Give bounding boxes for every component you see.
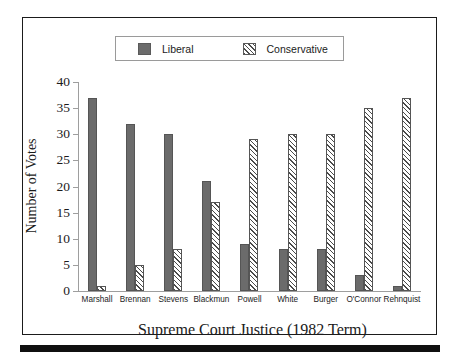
y-axis-tick <box>73 291 78 292</box>
x-axis-tick-label: Rehnquist <box>383 295 420 304</box>
x-axis-tick-label: Stevens <box>158 295 188 304</box>
legend-item-conservative: Conservative <box>243 43 328 55</box>
page-footer-rule <box>20 345 440 352</box>
y-axis-tick-label: 5 <box>63 257 70 273</box>
x-axis-tick-label: White <box>277 295 298 304</box>
y-axis-title: Number of Votes <box>24 138 40 233</box>
bar-liberal <box>126 124 135 291</box>
x-axis-tick-label: Marshall <box>82 295 113 304</box>
bar-liberal <box>164 134 173 291</box>
bar-group: Marshall <box>78 82 116 291</box>
chart-legend: Liberal Conservative <box>115 36 344 61</box>
y-axis-tick-label: 10 <box>57 231 71 247</box>
bar-conservative <box>364 108 373 291</box>
bar-conservative <box>211 202 220 291</box>
bar-conservative <box>135 265 144 291</box>
y-axis-tick-label: 0 <box>63 283 70 299</box>
bar-liberal <box>202 181 211 291</box>
legend-label-liberal: Liberal <box>162 43 194 55</box>
bar-group: Blackmun <box>192 82 230 291</box>
legend-label-conservative: Conservative <box>267 43 328 55</box>
bar-group: Burger <box>307 82 345 291</box>
bar-group: O'Connor <box>345 82 383 291</box>
y-axis-tick-label: 35 <box>57 100 71 116</box>
solid-square-icon <box>138 43 151 55</box>
bar-conservative <box>173 249 182 291</box>
x-axis-tick-label: Powell <box>237 295 261 304</box>
y-axis-tick-label: 40 <box>57 74 71 90</box>
bar-liberal <box>355 275 364 291</box>
x-axis-title: Supreme Court Justice (1982 Term) <box>45 321 455 339</box>
bar-group: Brennan <box>116 82 154 291</box>
y-axis-tick-label: 30 <box>57 126 71 142</box>
y-axis-tick-label: 20 <box>57 179 71 195</box>
bar-group: Stevens <box>154 82 192 291</box>
y-axis-tick-label: 15 <box>57 205 71 221</box>
bar-group: White <box>269 82 307 291</box>
bar-liberal <box>393 286 402 291</box>
bar-liberal <box>317 249 326 291</box>
bar-liberal <box>88 98 97 291</box>
bar-liberal <box>279 249 288 291</box>
x-axis-tick-label: Blackmun <box>193 295 229 304</box>
bar-conservative <box>402 98 411 291</box>
x-axis-tick-label: Burger <box>313 295 338 304</box>
bar-groups: MarshallBrennanStevensBlackmunPowellWhit… <box>78 82 421 291</box>
x-axis-tick-label: O'Connor <box>346 295 381 304</box>
figure-frame: Liberal Conservative Number of Votes 051… <box>22 17 437 335</box>
chart-page: Liberal Conservative Number of Votes 051… <box>0 0 455 356</box>
bar-group: Rehnquist <box>383 82 421 291</box>
x-axis-spine <box>78 291 421 292</box>
bar-group: Powell <box>230 82 268 291</box>
x-axis-tick-label: Brennan <box>120 295 151 304</box>
legend-item-liberal: Liberal <box>138 43 194 55</box>
bar-conservative <box>288 134 297 291</box>
bar-conservative <box>249 139 258 291</box>
plot-area: Number of Votes 0510152025303540 Marshal… <box>78 82 421 308</box>
bar-liberal <box>240 244 249 291</box>
bar-conservative <box>97 286 106 291</box>
y-axis-tick-label: 25 <box>57 152 71 168</box>
bar-conservative <box>326 134 335 291</box>
hatched-square-icon <box>243 43 256 55</box>
